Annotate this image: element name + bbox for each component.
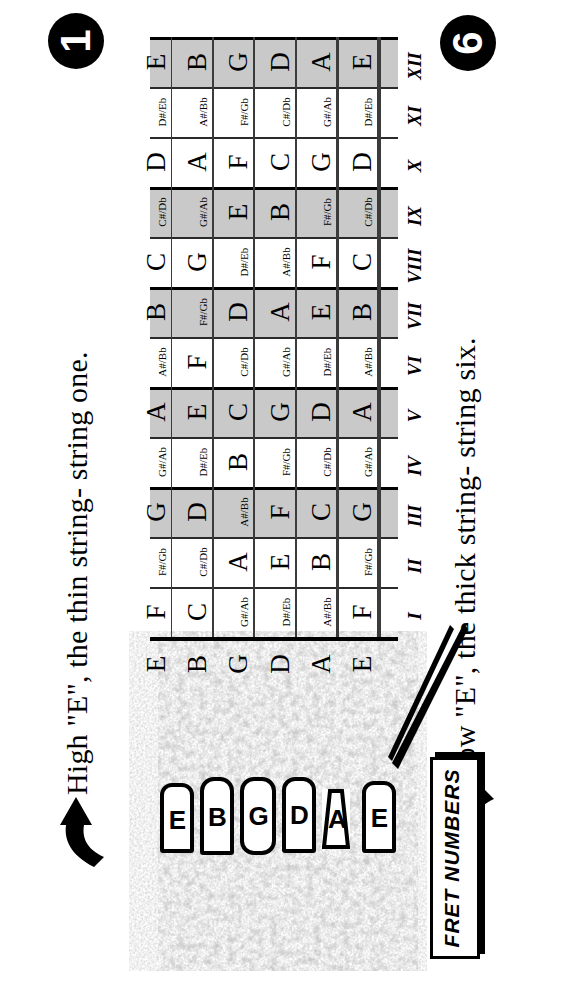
note-s4-fV: G	[267, 387, 294, 437]
note-s1-fI: F	[143, 587, 170, 637]
heading-string-one: High "E", the thin string- string one.	[60, 351, 94, 795]
note-s3-fIX: E	[225, 187, 252, 237]
note-s4-fII: E	[267, 537, 294, 587]
note-s4-fVII: A	[267, 287, 294, 337]
block-arrow-right-icon	[60, 795, 112, 869]
accidental-s3-fI: G#/Ab	[239, 587, 250, 637]
fret-number-X: X	[404, 141, 426, 191]
open-note-string-5: A	[306, 647, 337, 681]
fret-number-VII: VII	[404, 291, 426, 341]
open-note-string-3: G	[223, 647, 254, 681]
note-s5-fVIII: F	[308, 237, 335, 287]
tuner-label-4: D	[290, 800, 309, 831]
note-s3-fII: A	[225, 537, 252, 587]
note-s2-fX: A	[184, 137, 211, 187]
accidental-s5-fXI: G#/Ab	[322, 87, 333, 137]
fret-wire	[150, 437, 398, 439]
note-s1-fVII: B	[143, 287, 170, 337]
accidental-s5-fIV: C#/Db	[322, 437, 333, 487]
string-line-5	[336, 37, 339, 637]
accidental-s2-fXI: A#/Bb	[198, 87, 209, 137]
fret-wire	[150, 87, 398, 89]
fret-number-IX: IX	[404, 191, 426, 241]
fret-number-VIII: VIII	[404, 241, 426, 291]
note-s1-fVIII: C	[143, 237, 170, 287]
note-s3-fIV: B	[225, 437, 252, 487]
accidental-s1-fIV: G#/Ab	[157, 437, 168, 487]
badge-string-six: 6	[440, 15, 496, 71]
note-s3-fXII: G	[225, 37, 252, 87]
open-note-string-2: B	[182, 647, 213, 681]
note-s3-fVII: D	[225, 287, 252, 337]
accidental-s4-fVI: G#/Ab	[281, 337, 292, 387]
string-line-6	[377, 37, 381, 637]
open-note-string-4: D	[265, 647, 296, 681]
note-s4-fX: C	[267, 137, 294, 187]
fret-numbers-label: FRET NUMBERS	[433, 760, 471, 956]
accidental-s6-fII: F#/Gb	[363, 537, 374, 587]
tuner-2[interactable]: B	[200, 777, 234, 855]
accidental-s2-fVII: F#/Gb	[198, 287, 209, 337]
accidental-s6-fIX: C#/Db	[363, 187, 374, 237]
accidental-s3-fVI: C#/Db	[239, 337, 250, 387]
fret-number-XII: XII	[404, 41, 426, 91]
tuner-3[interactable]: G	[240, 777, 276, 855]
tuner-label-2: B	[208, 802, 227, 833]
accidental-s6-fIV: G#/Ab	[363, 437, 374, 487]
tuner-1[interactable]: E	[160, 783, 194, 853]
note-s6-fI: F	[349, 587, 376, 637]
tuner-4[interactable]: D	[282, 777, 316, 853]
note-s2-fIII: D	[184, 487, 211, 537]
open-note-string-6: E	[347, 647, 378, 681]
note-s4-fIX: B	[267, 187, 294, 237]
fret-number-II: II	[404, 541, 426, 591]
note-s6-fV: A	[349, 387, 376, 437]
accidental-s3-fIII: A#/Bb	[239, 487, 250, 537]
note-s6-fVIII: C	[349, 237, 376, 287]
note-s4-fIII: F	[267, 487, 294, 537]
accidental-s3-fVIII: D#/Eb	[239, 237, 250, 287]
note-s1-fXII: E	[143, 37, 170, 87]
note-s6-fIII: G	[349, 487, 376, 537]
accidental-s1-fII: F#/Gb	[157, 537, 168, 587]
note-s1-fV: A	[143, 387, 170, 437]
note-s1-fIII: G	[143, 487, 170, 537]
fret-number-XI: XI	[404, 91, 426, 141]
string-line-2	[212, 37, 214, 637]
note-s5-fV: D	[308, 387, 335, 437]
note-s2-fVI: F	[184, 337, 211, 387]
note-s2-fXII: B	[184, 37, 211, 87]
note-s5-fVII: E	[308, 287, 335, 337]
tuner-label-1: E	[169, 805, 186, 836]
note-s5-fII: B	[308, 537, 335, 587]
fret-column-XI	[150, 87, 398, 137]
note-s4-fXII: D	[267, 37, 294, 87]
fretboard-poster: High "E", the thin string- string one. 1…	[0, 0, 581, 981]
tuner-label-5: A	[328, 804, 347, 835]
string-line-3	[253, 37, 255, 637]
callout-pointer	[388, 621, 468, 771]
accidental-s5-fIX: F#/Gb	[322, 187, 333, 237]
note-s6-fX: D	[349, 137, 376, 187]
open-note-string-1: E	[141, 647, 172, 681]
note-s5-fIII: C	[308, 487, 335, 537]
note-s5-fX: G	[308, 137, 335, 187]
fret-number-row: IIIIIIIVVVIVIIVIIIIXXXIXII	[404, 41, 430, 641]
accidental-s2-fIX: G#/Ab	[198, 187, 209, 237]
note-s6-fXII: E	[349, 37, 376, 87]
accidental-s6-fVI: A#/Bb	[363, 337, 374, 387]
accidental-s1-fXI: D#/Eb	[157, 87, 168, 137]
accidental-s4-fVIII: A#/Bb	[281, 237, 292, 287]
string-line-4	[295, 37, 298, 637]
tuner-5[interactable]: A	[322, 789, 350, 849]
accidental-s2-fII: C#/Db	[198, 537, 209, 587]
fret-column-IV	[150, 437, 398, 487]
accidental-s4-fIV: F#/Gb	[281, 437, 292, 487]
accidental-s5-fI: A#/Bb	[322, 587, 333, 637]
accidental-s3-fXI: F#/Gb	[239, 87, 250, 137]
tuner-6[interactable]: E	[362, 781, 396, 853]
tuner-label-3: G	[248, 801, 268, 832]
fret-number-V: V	[404, 391, 426, 441]
accidental-s4-fI: D#/Eb	[281, 587, 292, 637]
accidental-s6-fXI: D#/Eb	[363, 87, 374, 137]
